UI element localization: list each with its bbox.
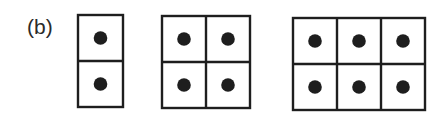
- grid-1x2: [78, 15, 123, 107]
- cell-dot: [177, 78, 191, 92]
- grid-2x2: [162, 16, 250, 108]
- cell-dot: [396, 80, 410, 94]
- cell-dot: [352, 80, 366, 94]
- cell-dot: [221, 32, 235, 46]
- grid-3x2: [293, 18, 425, 110]
- cell-dot: [94, 77, 108, 91]
- cell-dot: [94, 31, 108, 45]
- cell-dot: [221, 78, 235, 92]
- cell-dot: [177, 32, 191, 46]
- cell-dot: [308, 34, 322, 48]
- grid-figure: [0, 0, 445, 121]
- cell-dot: [308, 80, 322, 94]
- cell-dot: [352, 34, 366, 48]
- cell-dot: [396, 34, 410, 48]
